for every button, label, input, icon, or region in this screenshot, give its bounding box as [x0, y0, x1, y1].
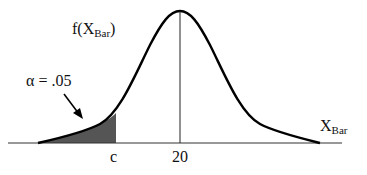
rejection-region-shade — [38, 113, 116, 143]
axis-label: XBar — [320, 117, 348, 136]
tick-label-mean: 20 — [172, 148, 188, 165]
curve-label: f(XBar) — [72, 20, 115, 39]
sampling-distribution-diagram: f(XBar) α = .05 XBar c 20 — [0, 0, 367, 175]
tick-label-c: c — [110, 148, 117, 165]
arrow-head-icon — [73, 108, 83, 119]
alpha-label: α = .05 — [26, 72, 71, 89]
